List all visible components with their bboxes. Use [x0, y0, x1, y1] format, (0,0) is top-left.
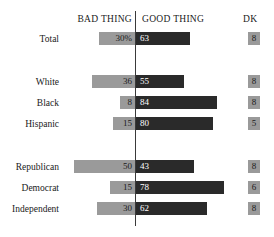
bar-value-bad-thing: 36: [123, 75, 132, 88]
bar-value-good-thing: 43: [140, 160, 149, 173]
bar-value-bad-thing: 30%: [116, 32, 133, 45]
dk-value-box: 8: [248, 202, 260, 215]
bar-segment-bad-thing: 36: [92, 75, 135, 88]
bar-segment-good-thing: 55: [136, 75, 184, 88]
bar-segment-bad-thing: 30%: [99, 32, 135, 45]
column-header-dk: DK: [243, 15, 257, 25]
column-header-bad-thing: BAD THING: [77, 15, 132, 25]
chart-row: Independent30628: [0, 202, 274, 216]
dk-value-box: 5: [248, 117, 260, 130]
bar-value-bad-thing: 15: [123, 181, 132, 194]
bar-segment-good-thing: 80: [136, 117, 213, 130]
chart-row: Republican50438: [0, 160, 274, 174]
bar-value-bad-thing: 50: [123, 160, 132, 173]
chart-row: White36558: [0, 75, 274, 89]
bar-segment-bad-thing: 15: [110, 181, 135, 194]
bar-segment-good-thing: 78: [136, 181, 224, 194]
row-label: White: [36, 76, 59, 88]
dk-value-box: 8: [248, 75, 260, 88]
row-label: Democrat: [22, 182, 59, 194]
bar-value-good-thing: 55: [140, 75, 149, 88]
bar-segment-bad-thing: 8: [120, 96, 135, 109]
diverging-bar-chart: BAD THING GOOD THING DK Total30%638White…: [0, 0, 274, 237]
row-label: Republican: [16, 161, 59, 173]
dk-value-box: 8: [248, 32, 260, 45]
bar-segment-bad-thing: 30: [97, 202, 135, 215]
chart-row: Democrat15786: [0, 181, 274, 195]
dk-value-box: 8: [248, 160, 260, 173]
bar-value-good-thing: 84: [140, 96, 149, 109]
bar-value-good-thing: 78: [140, 181, 149, 194]
row-label: Black: [37, 97, 59, 109]
chart-row: Hispanic15805: [0, 117, 274, 131]
row-label: Independent: [12, 203, 59, 215]
bar-segment-good-thing: 84: [136, 96, 217, 109]
row-label: Total: [40, 33, 59, 45]
bar-value-bad-thing: 15: [123, 117, 132, 130]
bar-value-bad-thing: 30: [123, 202, 132, 215]
chart-row: Black8848: [0, 96, 274, 110]
bar-segment-good-thing: 62: [136, 202, 207, 215]
bar-segment-bad-thing: 15: [113, 117, 135, 130]
bar-value-good-thing: 62: [140, 202, 149, 215]
bar-segment-bad-thing: 50: [74, 160, 135, 173]
dk-value-box: 6: [248, 181, 260, 194]
column-header-good-thing: GOOD THING: [142, 15, 204, 25]
chart-row: Total30%638: [0, 32, 274, 46]
row-label: Hispanic: [25, 118, 59, 130]
bar-value-bad-thing: 8: [128, 96, 133, 109]
dk-value-box: 8: [248, 96, 260, 109]
bar-segment-good-thing: 43: [136, 160, 194, 173]
bar-value-good-thing: 80: [140, 117, 149, 130]
bar-value-good-thing: 63: [140, 32, 149, 45]
bar-segment-good-thing: 63: [136, 32, 190, 45]
